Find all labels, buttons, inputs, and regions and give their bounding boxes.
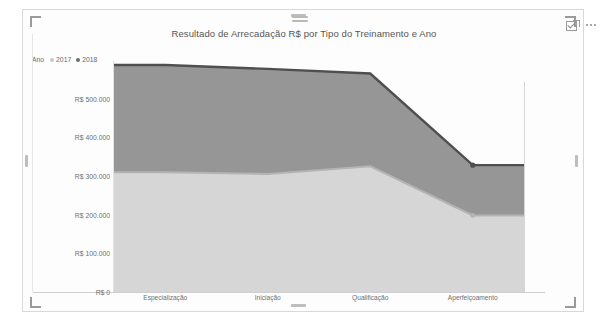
selection-handle-bottom-left[interactable]: [30, 297, 41, 308]
dot: [594, 24, 596, 26]
x-axis-tick: Qualificação: [352, 294, 388, 301]
grip-bar: [292, 16, 308, 18]
chart-plot-area[interactable]: [114, 60, 524, 292]
y-axis-tick: R$ 200.000: [75, 211, 110, 218]
y-axis-tick: R$ 0: [96, 289, 110, 296]
x-axis-tick: Aperfeiçoamento: [448, 294, 498, 301]
selection-handle-top-left[interactable]: [30, 16, 41, 27]
focus-mode-icon[interactable]: [566, 20, 579, 32]
dot: [586, 24, 588, 26]
y-axis-tick: R$ 500.000: [75, 95, 110, 102]
chart-title: Resultado de Arrecadação R$ por Tipo do …: [0, 28, 608, 39]
data-point-2018-last[interactable]: [470, 163, 475, 168]
dot: [590, 24, 592, 26]
x-axis-labels: EspecializaçãoIniciaçãoQualificaçãoAperf…: [114, 294, 524, 308]
resize-handle-right[interactable]: [575, 155, 578, 167]
selection-handle-bottom-right[interactable]: [565, 297, 576, 308]
data-point-2017-last[interactable]: [470, 213, 475, 218]
more-options-icon[interactable]: [586, 24, 596, 29]
visual-header-actions: [566, 20, 596, 32]
x-axis-tick: Iniciação: [255, 294, 281, 301]
y-axis-tick: R$ 300.000: [75, 173, 110, 180]
focus-arrow: [573, 20, 580, 27]
resize-handle-bottom[interactable]: [291, 304, 306, 307]
resize-handle-left[interactable]: [25, 155, 28, 167]
y-axis-tick: R$ 100.000: [75, 250, 110, 257]
x-axis-tick: Especialização: [143, 294, 187, 301]
plot-right-rule: [524, 82, 525, 292]
stacked-area-svg: [114, 60, 524, 292]
y-axis-labels: R$ 500.000R$ 400.000R$ 300.000R$ 200.000…: [30, 60, 114, 292]
grip-bar: [292, 20, 308, 22]
y-axis-tick: R$ 400.000: [75, 134, 110, 141]
drag-grip-icon[interactable]: [292, 16, 308, 23]
